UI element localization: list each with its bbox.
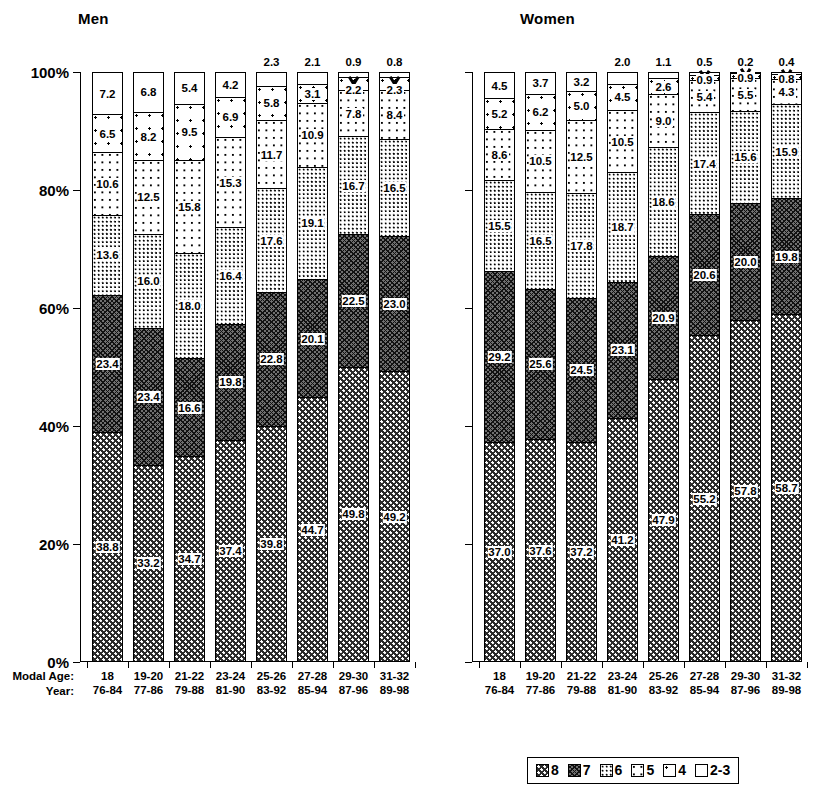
bar-segment[interactable]: 23.1 bbox=[608, 283, 637, 419]
bar-segment[interactable]: 23.0 bbox=[380, 237, 409, 372]
bar-segment[interactable]: 15.3 bbox=[216, 138, 245, 228]
bar-segment[interactable]: 38.8 bbox=[93, 433, 122, 661]
legend-item[interactable]: 8 bbox=[536, 762, 559, 778]
legend-item[interactable]: 6 bbox=[600, 762, 623, 778]
bar-segment[interactable]: 4.2 bbox=[216, 73, 245, 98]
bar-segment[interactable]: 37.4 bbox=[216, 441, 245, 661]
bar-segment[interactable]: 4.5 bbox=[608, 85, 637, 111]
bar-segment[interactable]: 37.0 bbox=[485, 443, 514, 661]
bar-segment[interactable]: 12.5 bbox=[134, 161, 163, 234]
bar-segment[interactable]: 17.8 bbox=[567, 194, 596, 298]
bar-segment[interactable]: 16.4 bbox=[216, 228, 245, 324]
bar-segment[interactable]: 2.6 bbox=[649, 79, 678, 94]
bar-segment[interactable]: 3.1 bbox=[298, 85, 327, 103]
bar-segment[interactable]: 10.9 bbox=[298, 104, 327, 168]
bar-segment[interactable]: 39.8 bbox=[257, 427, 286, 661]
bar-segment[interactable]: 6.2 bbox=[526, 95, 555, 131]
legend-item[interactable]: 5 bbox=[631, 762, 654, 778]
bar-segment[interactable]: 18.6 bbox=[649, 148, 678, 257]
bar-segment[interactable]: 25.6 bbox=[526, 290, 555, 440]
stacked-bar[interactable]: 3.25.012.517.824.537.2 bbox=[566, 72, 597, 662]
bar-segment[interactable]: 11.7 bbox=[257, 121, 286, 190]
stacked-bar[interactable]: 2.13.110.919.120.144.7 bbox=[297, 72, 328, 662]
bar-segment[interactable]: 10.5 bbox=[608, 111, 637, 173]
bar-segment[interactable]: 2.3 bbox=[380, 78, 409, 92]
bar-segment[interactable]: 41.2 bbox=[608, 419, 637, 661]
bar-segment[interactable]: 15.5 bbox=[485, 181, 514, 272]
bar-segment[interactable]: 10.6 bbox=[93, 153, 122, 215]
bar-segment[interactable]: 18.7 bbox=[608, 173, 637, 283]
bar-segment[interactable]: 33.2 bbox=[134, 466, 163, 661]
bar-segment[interactable]: 20.6 bbox=[690, 215, 719, 336]
bar-segment[interactable]: 16.5 bbox=[380, 140, 409, 237]
legend-item[interactable]: 7 bbox=[568, 762, 591, 778]
bar-segment[interactable]: 17.6 bbox=[257, 189, 286, 292]
stacked-bar[interactable]: 7.26.510.613.623.438.8 bbox=[92, 72, 123, 662]
bar-segment[interactable]: 15.9 bbox=[772, 105, 801, 199]
bar-segment[interactable]: 55.2 bbox=[690, 336, 719, 661]
bar-segment[interactable]: 37.2 bbox=[567, 443, 596, 661]
bar-segment[interactable]: 9.0 bbox=[649, 95, 678, 148]
bar-segment[interactable]: 5.8 bbox=[257, 87, 286, 121]
bar-segment[interactable]: 20.1 bbox=[298, 280, 327, 398]
bar-segment[interactable]: 5.2 bbox=[485, 99, 514, 130]
bar-segment[interactable]: 17.4 bbox=[690, 113, 719, 215]
stacked-bar[interactable]: 6.88.212.516.023.433.2 bbox=[133, 72, 164, 662]
stacked-bar[interactable]: 4.55.28.615.529.237.0 bbox=[484, 72, 515, 662]
bar-segment[interactable]: 20.0 bbox=[731, 204, 760, 322]
bar-segment[interactable]: 19.1 bbox=[298, 168, 327, 280]
stacked-bar[interactable]: 0.50.95.417.420.655.2 bbox=[689, 72, 720, 662]
stacked-bar[interactable]: 1.12.69.018.620.947.9 bbox=[648, 72, 679, 662]
legend-item[interactable]: 2-3 bbox=[695, 762, 730, 778]
bar-segment[interactable]: 4.5 bbox=[485, 73, 514, 99]
bar-segment[interactable]: 37.6 bbox=[526, 440, 555, 661]
bar-segment[interactable]: 8.4 bbox=[380, 91, 409, 140]
bar-segment[interactable]: 3.2 bbox=[567, 73, 596, 92]
bar-segment[interactable]: 2.3 bbox=[257, 73, 286, 87]
stacked-bar[interactable]: 0.20.95.515.620.057.8 bbox=[730, 72, 761, 662]
bar-segment[interactable]: 20.9 bbox=[649, 257, 678, 380]
stacked-bar[interactable]: 2.35.811.717.622.839.8 bbox=[256, 72, 287, 662]
bar-segment[interactable]: 16.0 bbox=[134, 235, 163, 329]
bar-segment[interactable]: 23.4 bbox=[134, 329, 163, 466]
bar-segment[interactable]: 49.8 bbox=[339, 368, 368, 661]
bar-segment[interactable]: 8.2 bbox=[134, 113, 163, 161]
stacked-bar[interactable]: 0.82.38.416.523.049.2 bbox=[379, 72, 410, 662]
bar-segment[interactable]: 15.6 bbox=[731, 112, 760, 204]
stacked-bar[interactable]: 0.40.84.315.919.858.7 bbox=[771, 72, 802, 662]
bar-segment[interactable]: 8.6 bbox=[485, 130, 514, 181]
stacked-bar[interactable]: 2.04.510.518.723.141.2 bbox=[607, 72, 638, 662]
bar-segment[interactable]: 57.8 bbox=[731, 321, 760, 661]
bar-segment[interactable]: 47.9 bbox=[649, 380, 678, 661]
stacked-bar[interactable]: 4.26.915.316.419.837.4 bbox=[215, 72, 246, 662]
bar-segment[interactable]: 9.5 bbox=[175, 105, 204, 161]
bar-segment[interactable]: 23.4 bbox=[93, 296, 122, 433]
bar-segment[interactable]: 16.7 bbox=[339, 137, 368, 235]
bar-segment[interactable]: 7.2 bbox=[93, 73, 122, 115]
bar-segment[interactable]: 15.8 bbox=[175, 161, 204, 254]
legend-item[interactable]: 4 bbox=[663, 762, 686, 778]
bar-segment[interactable]: 2.2 bbox=[339, 78, 368, 91]
stacked-bar[interactable]: 0.92.27.816.722.549.8 bbox=[338, 72, 369, 662]
bar-segment[interactable]: 16.5 bbox=[526, 193, 555, 290]
bar-segment[interactable]: 24.5 bbox=[567, 299, 596, 443]
bar-segment[interactable]: 58.7 bbox=[772, 315, 801, 661]
bar-segment[interactable]: 44.7 bbox=[298, 398, 327, 661]
bar-segment[interactable]: 22.5 bbox=[339, 235, 368, 367]
bar-segment[interactable]: 13.6 bbox=[93, 216, 122, 296]
bar-segment[interactable]: 19.8 bbox=[772, 199, 801, 316]
bar-segment[interactable]: 29.2 bbox=[485, 272, 514, 444]
bar-segment[interactable]: 6.9 bbox=[216, 98, 245, 139]
bar-segment[interactable]: 19.8 bbox=[216, 325, 245, 441]
bar-segment[interactable]: 49.2 bbox=[380, 372, 409, 661]
stacked-bar[interactable]: 5.49.515.818.016.634.7 bbox=[174, 72, 205, 662]
bar-segment[interactable]: 5.4 bbox=[175, 73, 204, 105]
bar-segment[interactable]: 7.8 bbox=[339, 91, 368, 137]
bar-segment[interactable]: 18.0 bbox=[175, 254, 204, 360]
bar-segment[interactable]: 34.7 bbox=[175, 457, 204, 661]
stacked-bar[interactable]: 3.76.210.516.525.637.6 bbox=[525, 72, 556, 662]
bar-segment[interactable]: 12.5 bbox=[567, 121, 596, 194]
bar-segment[interactable]: 3.7 bbox=[526, 73, 555, 95]
bar-segment[interactable]: 10.5 bbox=[526, 131, 555, 193]
bar-segment[interactable]: 5.0 bbox=[567, 92, 596, 121]
